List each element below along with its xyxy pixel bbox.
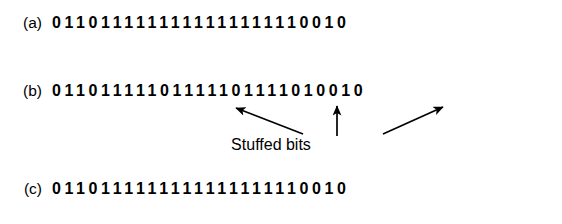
row-label-b: (b) (0, 82, 42, 100)
row-label-c: (c) (0, 180, 42, 198)
row-label-a: (a) (0, 14, 42, 32)
bit-stuffing-figure: (a) 0110111111111111111110010 (b) 011011… (0, 0, 562, 224)
bit-sequence-a: 0110111111111111111110010 (52, 14, 349, 32)
bit-sequence-c: 0110111111111111111110010 (52, 180, 349, 198)
original-data-row: (a) 0110111111111111111110010 (0, 14, 349, 32)
arrow-to-first-stuffed-bit (236, 108, 303, 134)
arrow-to-third-stuffed-bit (383, 107, 443, 134)
destuffed-data-row: (c) 0110111111111111111110010 (0, 180, 349, 198)
stuffed-data-row: (b) 01101111101111101111010010 (0, 82, 366, 100)
stuffed-bits-caption: Stuffed bits (0, 136, 562, 154)
bit-sequence-b: 01101111101111101111010010 (52, 82, 366, 100)
stuffed-bits-caption-text: Stuffed bits (231, 136, 311, 154)
